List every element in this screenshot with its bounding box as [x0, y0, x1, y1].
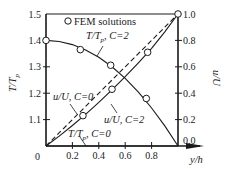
y-right-tick-label: 0.8 [183, 35, 196, 46]
y-right-tick-label: 1.0 [183, 9, 196, 20]
x-tick-label: 0.6 [119, 150, 132, 161]
fem-marker-circle-icon [43, 37, 50, 44]
fem-marker-circle-icon [109, 86, 116, 93]
annotation-t-c2: T/Tp, C=2 [86, 30, 129, 44]
origin-label: 0 [35, 151, 40, 162]
y-right-tick-label: 0.0 [183, 135, 196, 146]
y-left-axis-label: T/Tp [7, 73, 21, 92]
annotation-u-c2: u/U, C=2 [104, 114, 145, 125]
fem-marker-circle-icon [77, 46, 84, 53]
y-left-tick-label: 1.3 [29, 61, 42, 72]
fem-marker-circle-icon [107, 62, 114, 69]
annotation-u-c0: u/U, C=0 [53, 91, 94, 102]
x-tick-label: 0.4 [93, 150, 106, 161]
fem-marker-circle-icon [143, 95, 150, 102]
y-right-axis-label: u/U [211, 70, 222, 87]
x-tick-label: 0.8 [145, 150, 158, 161]
legend: FEM solutions [65, 16, 136, 27]
x-axis-label: y/h [189, 154, 203, 165]
fem-marker-circle-icon [80, 112, 87, 119]
legend-label: FEM solutions [74, 16, 136, 27]
annotation-t-c0: T/Tp, C=0 [68, 128, 111, 142]
chart: 0.20.40.60.81.11.21.31.41.50.00.20.40.60… [0, 0, 228, 169]
y-right-tick-label: 0.6 [183, 61, 196, 72]
y-left-tick-label: 1.4 [29, 35, 42, 46]
y-left-tick-label: 1.5 [29, 9, 42, 20]
y-right-tick-label: 0.2 [183, 114, 196, 125]
x-tick-label: 0.2 [66, 150, 79, 161]
y-left-tick-label: 1.2 [29, 88, 42, 99]
legend-circle-marker-icon [65, 18, 71, 24]
y-right-tick-label: 0.4 [183, 88, 196, 99]
fem-marker-circle-icon [175, 11, 182, 18]
y-left-tick-label: 1.1 [29, 114, 42, 125]
fem-marker-circle-icon [144, 49, 151, 56]
